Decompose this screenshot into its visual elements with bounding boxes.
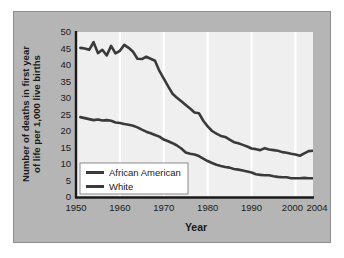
y-tick-5: 5 — [66, 175, 71, 186]
x-axis-title: Year — [185, 221, 207, 233]
y-tick-50: 50 — [60, 26, 71, 37]
x-tick-1960: 1960 — [109, 202, 130, 213]
legend-label-african-american: African American — [109, 167, 181, 178]
legend-label-white: White — [109, 181, 133, 192]
y-tick-10: 10 — [60, 158, 71, 169]
y-tick-35: 35 — [60, 76, 71, 87]
y-tick-30: 30 — [60, 92, 71, 103]
y-tick-45: 45 — [60, 43, 71, 54]
y-tick-40: 40 — [60, 59, 71, 70]
x-axis-tick-labels: 1950196019701980199020002004 — [65, 202, 327, 213]
x-tick-2004: 2004 — [306, 202, 327, 213]
y-tick-0: 0 — [66, 191, 71, 202]
y-tick-20: 20 — [60, 125, 71, 136]
y-axis-tick-labels: 05101520253035404550 — [60, 26, 71, 202]
x-tick-1970: 1970 — [153, 202, 174, 213]
chart-figure: 05101520253035404550 1950196019701980199… — [0, 0, 344, 258]
x-tick-1950: 1950 — [65, 202, 86, 213]
y-axis-title-line1: Number of deaths in first year — [20, 46, 31, 182]
x-tick-1990: 1990 — [241, 202, 262, 213]
x-tick-2000: 2000 — [282, 202, 303, 213]
y-axis-title-line2: of life per 1,000 live births — [31, 55, 42, 173]
y-tick-15: 15 — [60, 142, 71, 153]
y-axis-title: Number of deaths in first year of life p… — [20, 46, 42, 182]
y-tick-25: 25 — [60, 109, 71, 120]
infant-mortality-line-chart: 05101520253035404550 1950196019701980199… — [0, 0, 344, 258]
chart-legend: African American White — [80, 163, 188, 194]
x-tick-1980: 1980 — [197, 202, 218, 213]
